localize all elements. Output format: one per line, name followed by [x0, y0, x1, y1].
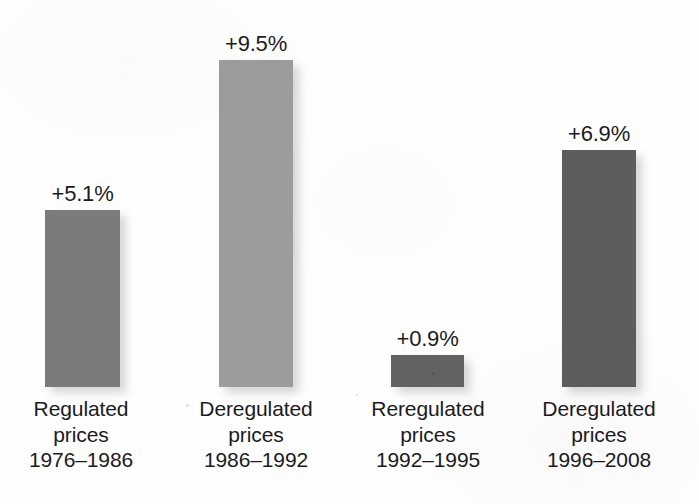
bar-1 — [45, 210, 120, 387]
scan-speck — [356, 394, 358, 396]
caption-4-line-2: prices — [516, 422, 682, 448]
caption-4-line-3: 1996–2008 — [516, 447, 682, 473]
value-label-3: +0.9% — [391, 327, 464, 351]
bar-4 — [562, 150, 636, 387]
scan-speck — [432, 372, 435, 375]
caption-3-line-2: prices — [345, 422, 511, 448]
value-label-2: +9.5% — [219, 32, 293, 56]
caption-2-line-2: prices — [173, 422, 339, 448]
bar-chart: +5.1% Regulated prices 1976–1986 +9.5% D… — [0, 0, 699, 504]
bar-2 — [219, 60, 293, 387]
caption-1-line-3: 1976–1986 — [0, 447, 164, 473]
caption-3-line-1: Reregulated — [345, 396, 511, 422]
caption-2-line-1: Deregulated — [173, 396, 339, 422]
caption-4-line-1: Deregulated — [516, 396, 682, 422]
value-label-1: +5.1% — [45, 182, 120, 206]
caption-1-line-2: prices — [0, 422, 164, 448]
caption-3: Reregulated prices 1992–1995 — [345, 396, 511, 473]
caption-2: Deregulated prices 1986–1992 — [173, 396, 339, 473]
caption-1-line-1: Regulated — [0, 396, 164, 422]
caption-4: Deregulated prices 1996–2008 — [516, 396, 682, 473]
scan-speck — [186, 404, 189, 407]
bar-3 — [391, 355, 464, 387]
value-label-4: +6.9% — [562, 122, 636, 146]
caption-2-line-3: 1986–1992 — [173, 447, 339, 473]
caption-1: Regulated prices 1976–1986 — [0, 396, 164, 473]
caption-3-line-3: 1992–1995 — [345, 447, 511, 473]
